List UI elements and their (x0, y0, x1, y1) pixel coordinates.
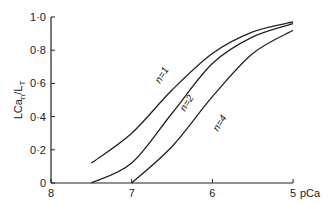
chart: 00·20·40·60·81·0 8765 pCa LCan/LT n=1n=2… (0, 0, 329, 204)
curve-label: n=4 (210, 112, 229, 133)
y-tick-label: 0·4 (30, 111, 46, 123)
y-tick-label: 1·0 (30, 11, 46, 23)
y-tick-label: 0 (40, 177, 46, 189)
y-tick-label: 0·2 (30, 144, 46, 156)
x-ticks: 8765 (48, 179, 296, 199)
curve-label: n=2 (177, 92, 196, 113)
curve-label: n=1 (152, 65, 170, 85)
y-axis-label: LCan/LT (12, 81, 27, 120)
y-tick-label: 0·8 (30, 44, 46, 56)
x-axis-label: pCa (300, 187, 321, 199)
x-tick-label: 5 (290, 187, 296, 199)
x-tick-label: 6 (209, 187, 215, 199)
x-tick-label: 8 (48, 187, 54, 199)
y-tick-label: 0·6 (30, 77, 46, 89)
x-tick-label: 7 (129, 187, 135, 199)
curve-n=1 (91, 22, 293, 163)
